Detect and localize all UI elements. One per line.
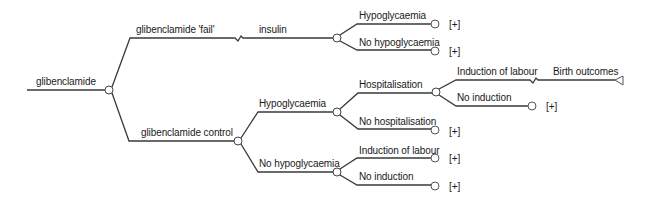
chance-node-control[interactable]: [234, 137, 242, 145]
terminal-node-fail-hypo[interactable]: [431, 20, 439, 28]
label-hospitalisation: Hospitalisation: [359, 79, 423, 91]
expand-no-hospitalisation[interactable]: [+]: [449, 126, 460, 138]
terminal-node-no-induction[interactable]: [431, 182, 439, 190]
edge-induction-of-labour-hosp: [439, 78, 615, 89]
label-glibenclamide-fail: glibenclamide 'fail': [136, 24, 215, 36]
expand-no-induction-hosp[interactable]: [+]: [546, 101, 557, 113]
expand-no-induction[interactable]: [+]: [449, 181, 460, 193]
label-induction-of-labour-hosp: Induction of labour: [457, 66, 537, 78]
expand-fail-hypo[interactable]: [+]: [449, 19, 460, 31]
expand-induction[interactable]: [+]: [449, 153, 460, 165]
edge-fail-hypoglycaemia: [340, 24, 431, 35]
edge-hospitalisation: [340, 93, 432, 109]
label-no-induction-hosp: No induction: [457, 92, 511, 104]
label-fail-no-hypoglycaemia: No hypoglycaemia: [359, 37, 440, 49]
label-induction-of-labour: Induction of labour: [359, 145, 439, 157]
label-insulin: insulin: [259, 24, 287, 36]
edge-control-hypoglycaemia: [241, 112, 333, 138]
label-no-induction: No induction: [359, 171, 413, 183]
edge-glibenclamide-fail: [112, 36, 333, 87]
terminal-node-no-induction-hosp[interactable]: [528, 102, 536, 110]
label-birth-outcomes: Birth outcomes: [553, 66, 618, 78]
chance-node-root[interactable]: [105, 86, 113, 94]
expand-fail-no-hypo[interactable]: [+]: [449, 46, 460, 58]
chance-node-fail[interactable]: [333, 34, 341, 42]
label-root: glibenclamide: [36, 76, 96, 88]
label-control-no-hypoglycaemia: No hypoglycaemia: [259, 158, 340, 170]
label-glibenclamide-control: glibenclamide control: [141, 127, 233, 139]
chance-node-control-hypo[interactable]: [333, 108, 341, 116]
chance-node-hospitalisation[interactable]: [432, 88, 440, 96]
label-no-hospitalisation: No hospitalisation: [359, 116, 436, 128]
label-fail-hypoglycaemia: Hypoglycaemia: [359, 10, 426, 22]
label-control-hypoglycaemia: Hypoglycaemia: [259, 98, 326, 110]
edge-induction-of-labour: [340, 158, 431, 169]
